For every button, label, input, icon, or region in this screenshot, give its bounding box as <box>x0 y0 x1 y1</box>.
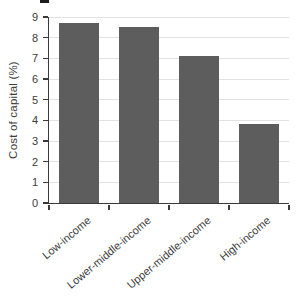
y-tick-mark-2 <box>43 161 48 162</box>
gridline-y-9 <box>49 17 289 18</box>
bar-high-income <box>239 124 279 203</box>
y-tick-mark-0 <box>43 202 48 203</box>
y-tick-label-4: 4 <box>8 113 38 127</box>
y-tick-mark-5 <box>43 99 48 100</box>
bar-upper-middle-income <box>179 56 219 203</box>
y-tick-label-0: 0 <box>8 196 38 210</box>
y-tick-label-1: 1 <box>8 175 38 189</box>
y-tick-label-6: 6 <box>8 72 38 86</box>
y-tick-mark-9 <box>43 16 48 17</box>
cropped-text-fragment <box>40 0 49 3</box>
x-tick-mark-4 <box>288 205 289 210</box>
y-tick-mark-6 <box>43 78 48 79</box>
bar-chart-figure: Cost of capital (%) 0123456789Low-income… <box>0 0 305 302</box>
y-tick-label-3: 3 <box>8 134 38 148</box>
x-tick-mark-2 <box>168 205 169 210</box>
y-tick-label-2: 2 <box>8 155 38 169</box>
y-tick-label-9: 9 <box>8 10 38 24</box>
y-tick-mark-8 <box>43 37 48 38</box>
bar-lower-middle-income <box>119 27 159 203</box>
y-tick-mark-1 <box>43 182 48 183</box>
plot-area: 0123456789Low-incomeLower-middle-incomeU… <box>48 17 289 204</box>
x-tick-mark-3 <box>228 205 229 210</box>
y-tick-label-5: 5 <box>8 93 38 107</box>
x-tick-mark-1 <box>108 205 109 210</box>
y-tick-mark-7 <box>43 58 48 59</box>
y-tick-label-7: 7 <box>8 51 38 65</box>
x-tick-mark-0 <box>48 205 49 210</box>
bar-low-income <box>59 23 99 203</box>
x-tick-label-low-income: Low-income <box>40 214 93 261</box>
x-tick-label-high-income: High-income <box>218 214 273 263</box>
y-tick-mark-3 <box>43 140 48 141</box>
y-tick-label-8: 8 <box>8 31 38 45</box>
y-tick-mark-4 <box>43 120 48 121</box>
